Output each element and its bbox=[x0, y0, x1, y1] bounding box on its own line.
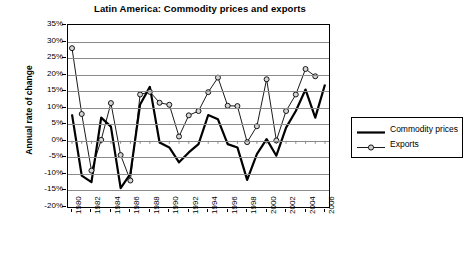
y-axis-tick-mark bbox=[62, 57, 66, 58]
y-axis-tick-label: -5% bbox=[1, 152, 63, 160]
x-axis-tick-labels: 1980198219841986198819901992199419961998… bbox=[67, 209, 330, 255]
gridline bbox=[68, 42, 329, 43]
x-axis-tick-mark bbox=[110, 209, 111, 212]
data-point-marker bbox=[89, 168, 94, 173]
x-axis-tick-mark bbox=[324, 209, 325, 212]
y-axis-tick-label: 35% bbox=[1, 20, 63, 28]
x-axis-tick-mark bbox=[90, 209, 91, 212]
x-axis-tick-label: 1988 bbox=[153, 196, 161, 214]
y-axis-tick-mark bbox=[62, 156, 66, 157]
data-point-marker bbox=[284, 109, 289, 114]
x-axis-tick-label: 2006 bbox=[328, 196, 336, 214]
x-axis-tick-label: 1982 bbox=[94, 196, 102, 214]
gridline bbox=[68, 141, 329, 142]
legend-swatch-commodity-prices bbox=[356, 124, 386, 135]
y-axis-tick-mark bbox=[62, 107, 66, 108]
y-axis-tick-label: 5% bbox=[1, 119, 63, 127]
chart-title: Latin America: Commodity prices and expo… bbox=[0, 3, 400, 14]
x-axis-tick-label: 1994 bbox=[211, 196, 219, 214]
y-axis-tick-mark bbox=[62, 123, 66, 124]
legend-swatch-exports bbox=[356, 139, 386, 150]
y-axis-tick-label: 0% bbox=[1, 136, 63, 144]
y-axis-tick-labels: 35%30%25%20%15%10%5%0%-5%-10%-15%-20% bbox=[0, 24, 63, 208]
x-axis-tick-mark bbox=[188, 209, 189, 212]
plot-svg bbox=[68, 25, 329, 207]
data-point-marker bbox=[157, 100, 162, 105]
y-axis-tick-label: 20% bbox=[1, 70, 63, 78]
y-axis-tick-mark bbox=[62, 189, 66, 190]
x-axis-tick-mark bbox=[129, 209, 130, 212]
legend-label-exports: Exports bbox=[390, 140, 419, 149]
data-point-marker bbox=[79, 112, 84, 117]
data-point-marker bbox=[70, 46, 75, 51]
data-point-marker bbox=[196, 109, 201, 114]
data-point-marker bbox=[215, 75, 220, 80]
y-axis-tick-label: -10% bbox=[1, 169, 63, 177]
x-axis-tick-label: 1992 bbox=[192, 196, 200, 214]
legend-item-exports: Exports bbox=[356, 138, 419, 151]
gridline bbox=[68, 108, 329, 109]
chart-container: Latin America: Commodity prices and expo… bbox=[0, 0, 465, 255]
data-point-marker bbox=[293, 92, 298, 97]
x-axis-tick-mark bbox=[168, 209, 169, 212]
y-axis-tick-mark bbox=[62, 173, 66, 174]
gridline bbox=[68, 124, 329, 125]
x-axis-tick-mark bbox=[285, 209, 286, 212]
y-axis-tick-label: 10% bbox=[1, 103, 63, 111]
legend-label-commodity-prices: Commodity prices bbox=[390, 125, 458, 134]
x-axis-tick-label: 1998 bbox=[250, 196, 258, 214]
y-axis-tick-mark bbox=[62, 74, 66, 75]
series-line-exports bbox=[72, 48, 315, 180]
y-axis-tick-mark bbox=[62, 41, 66, 42]
gridline bbox=[68, 91, 329, 92]
data-point-marker bbox=[264, 77, 269, 82]
chart-legend: Commodity prices Exports bbox=[351, 117, 463, 158]
plot-area bbox=[67, 24, 330, 208]
x-axis-tick-mark bbox=[266, 209, 267, 212]
x-axis-tick-label: 2004 bbox=[309, 196, 317, 214]
y-axis-tick-label: 30% bbox=[1, 37, 63, 45]
y-axis-tick-mark bbox=[62, 140, 66, 141]
y-axis-tick-mark bbox=[62, 90, 66, 91]
x-axis-tick-label: 1980 bbox=[75, 196, 83, 214]
data-point-marker bbox=[167, 102, 172, 107]
x-axis-tick-mark bbox=[207, 209, 208, 212]
y-axis-tick-label: 15% bbox=[1, 86, 63, 94]
x-axis-tick-label: 1986 bbox=[133, 196, 141, 214]
x-axis-tick-label: 2002 bbox=[289, 196, 297, 214]
x-axis-tick-mark bbox=[227, 209, 228, 212]
x-axis-tick-mark bbox=[305, 209, 306, 212]
x-axis-tick-label: 1996 bbox=[231, 196, 239, 214]
x-axis-tick-mark bbox=[149, 209, 150, 212]
legend-item-commodity-prices: Commodity prices bbox=[356, 123, 458, 136]
gridline bbox=[68, 157, 329, 158]
gridline bbox=[68, 174, 329, 175]
y-axis-tick-mark bbox=[62, 206, 66, 207]
x-axis-tick-label: 2000 bbox=[270, 196, 278, 214]
data-point-marker bbox=[303, 67, 308, 72]
data-point-marker bbox=[177, 134, 182, 139]
y-axis-tick-mark bbox=[62, 24, 66, 25]
series-line-commodity-prices bbox=[72, 85, 325, 189]
x-axis-tick-label: 1984 bbox=[114, 196, 122, 214]
gridline bbox=[68, 190, 329, 191]
x-axis-tick-mark bbox=[246, 209, 247, 212]
gridline bbox=[68, 75, 329, 76]
x-axis-tick-label: 1990 bbox=[172, 196, 180, 214]
data-point-marker bbox=[138, 92, 143, 97]
data-point-marker bbox=[108, 101, 113, 106]
y-axis-tick-label: -15% bbox=[1, 185, 63, 193]
data-point-marker bbox=[128, 178, 133, 183]
y-axis-tick-label: 25% bbox=[1, 53, 63, 61]
data-point-marker bbox=[186, 113, 191, 118]
gridline bbox=[68, 58, 329, 59]
y-axis-tick-label: -20% bbox=[1, 202, 63, 210]
x-axis-tick-mark bbox=[71, 209, 72, 212]
